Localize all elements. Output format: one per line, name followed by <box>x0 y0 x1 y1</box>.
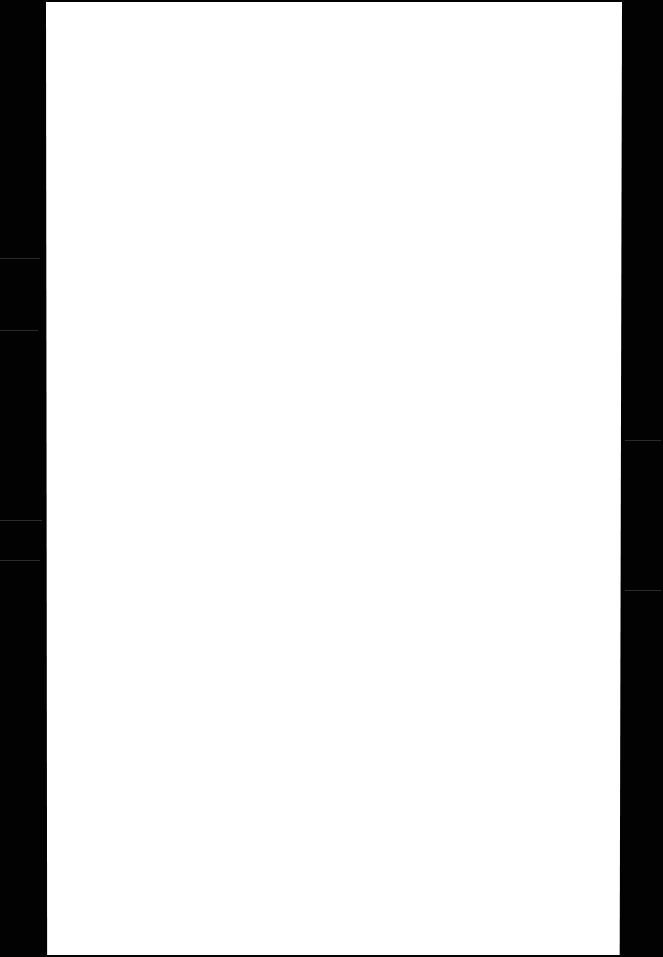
scan-streak <box>0 560 40 561</box>
blank-page <box>46 2 622 955</box>
scanner-background <box>0 0 663 957</box>
scan-streak <box>625 590 661 591</box>
scan-streak <box>0 258 40 259</box>
scan-streak <box>625 440 661 441</box>
scan-streak <box>0 520 42 521</box>
scan-streak <box>0 330 38 331</box>
